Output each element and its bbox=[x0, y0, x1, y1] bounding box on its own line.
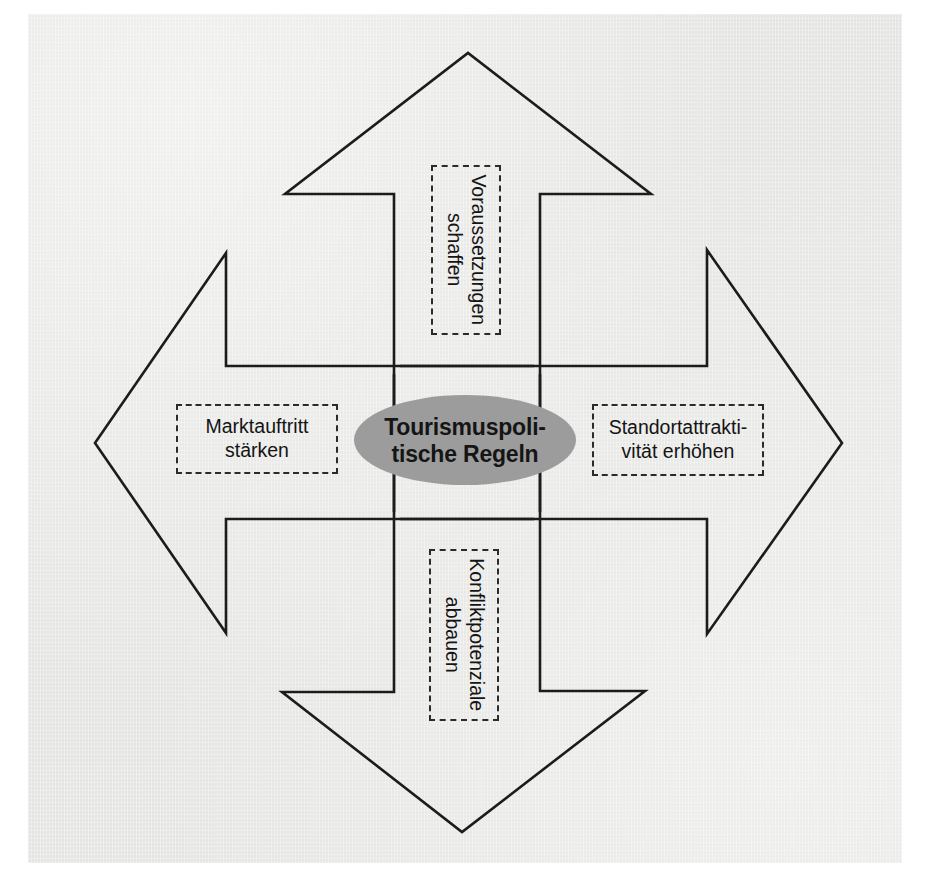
label-top-line2: schaffen bbox=[442, 175, 466, 326]
label-bottom-line1: Konfliktpotenziale bbox=[464, 559, 488, 712]
label-box-right[interactable]: Standortattrakti- vität erhöhen bbox=[592, 404, 764, 476]
label-right-line1: Standortattrakti- bbox=[609, 416, 748, 440]
diagram-root: Voraussetzungen schaffen Konfliktpotenzi… bbox=[0, 0, 929, 885]
label-box-bottom[interactable]: Konfliktpotenziale abbauen bbox=[429, 549, 499, 721]
label-left-line2: stärken bbox=[206, 439, 309, 463]
label-top-text: Voraussetzungen schaffen bbox=[442, 175, 490, 326]
label-box-top[interactable]: Voraussetzungen schaffen bbox=[431, 165, 501, 335]
label-right-text: Standortattrakti- vität erhöhen bbox=[609, 416, 748, 464]
label-right-line2: vität erhöhen bbox=[609, 440, 748, 464]
label-left-text: Marktauftritt stärken bbox=[206, 415, 309, 463]
label-bottom-text: Konfliktpotenziale abbauen bbox=[440, 559, 488, 712]
label-top-line1: Voraussetzungen bbox=[466, 175, 490, 326]
label-box-left[interactable]: Marktauftritt stärken bbox=[176, 404, 338, 474]
diagram-canvas bbox=[0, 0, 929, 885]
center-ellipse-fill bbox=[354, 395, 576, 485]
label-left-line1: Marktauftritt bbox=[206, 415, 309, 439]
label-bottom-line2: abbauen bbox=[440, 559, 464, 712]
